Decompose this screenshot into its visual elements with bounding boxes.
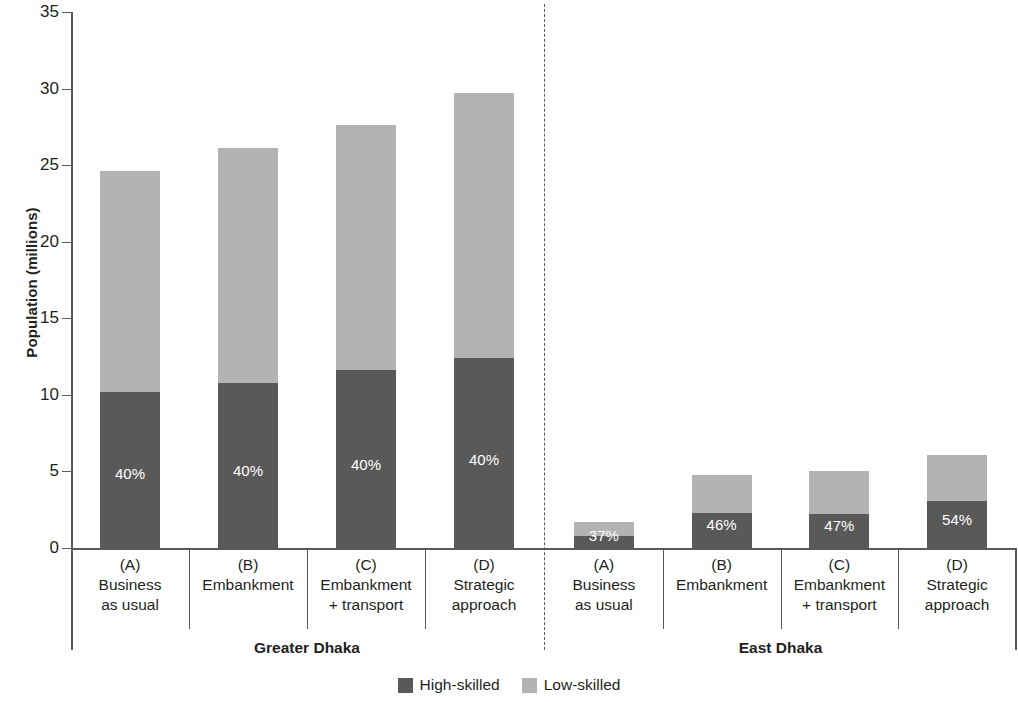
bar-segment-low-skilled [692,475,752,513]
bar-segment-low-skilled [809,471,869,514]
category-label: (B)Embankment [663,555,781,595]
category-label: (A)Businessas usual [545,555,663,615]
category-name-line: Business [545,575,663,595]
category-label: (D)Strategicapproach [425,555,543,615]
y-tick-label: 5 [23,462,59,479]
category-name-line: Embankment [781,575,899,595]
y-tick-label: 0 [23,539,59,556]
legend-item-high-skilled: High-skilled [398,676,500,694]
category-name-line: Embankment [663,575,781,595]
category-code: (D) [898,555,1016,575]
y-tick-mark [62,548,71,549]
bar-segment-low-skilled [100,171,160,392]
category-name-line: + transport [781,595,899,615]
bar-segment-high-skilled [809,514,869,548]
bar-segment-low-skilled [336,125,396,370]
y-tick-mark [62,165,71,166]
bar: 46% [692,475,752,549]
y-tick-mark [62,89,71,90]
y-tick-label: 15 [23,309,59,326]
bar-segment-high-skilled [100,392,160,548]
y-axis-title: Population (millions) [23,168,40,398]
category-code: (C) [307,555,425,575]
category-separator [425,549,426,629]
category-name-line: Strategic [898,575,1016,595]
bar-segment-low-skilled [454,93,514,358]
y-axis-line [71,12,73,549]
y-tick-label: 30 [23,80,59,97]
y-tick-mark [62,318,71,319]
bar: 40% [218,148,278,548]
bar: 37% [574,522,634,548]
category-name-line: approach [425,595,543,615]
category-name-line: as usual [71,595,189,615]
category-name-line: approach [898,595,1016,615]
bar: 40% [336,125,396,548]
category-code: (A) [71,555,189,575]
bar-segment-high-skilled [218,383,278,548]
y-tick-mark [62,242,71,243]
bar-segment-high-skilled [574,536,634,548]
y-tick-mark [62,395,71,396]
legend-label-high-skilled: High-skilled [420,676,500,694]
category-name-line: Embankment [307,575,425,595]
legend-swatch-high-skilled-icon [398,678,413,693]
category-label: (D)Strategicapproach [898,555,1016,615]
category-code: (D) [425,555,543,575]
category-separator [898,549,899,629]
category-code: (A) [545,555,663,575]
bar: 40% [454,93,514,548]
category-name-line: Business [71,575,189,595]
category-label: (C)Embankment+ transport [307,555,425,615]
category-code: (C) [781,555,899,575]
bar-segment-high-skilled [927,501,987,548]
y-tick-mark [62,471,71,472]
y-tick-mark [62,12,71,13]
bar-segment-high-skilled [454,358,514,548]
bar: 47% [809,471,869,548]
category-separator [663,549,664,629]
category-name-line: Embankment [189,575,307,595]
category-separator [189,549,190,629]
category-code: (B) [189,555,307,575]
bar-segment-high-skilled [336,370,396,548]
bar-segment-low-skilled [927,455,987,501]
bar: 54% [927,455,987,548]
bar: 40% [100,171,160,548]
category-name-line: Strategic [425,575,543,595]
bar-segment-high-skilled [692,513,752,548]
category-code: (B) [663,555,781,575]
y-tick-label: 35 [23,3,59,20]
y-tick-label: 25 [23,156,59,173]
stacked-bar-chart: Population (millions) 05101520253035 40%… [0,0,1018,702]
group-divider-dashed [544,4,545,650]
legend: High-skilled Low-skilled [0,676,1018,694]
category-separator [781,549,782,629]
bar-segment-low-skilled [574,522,634,536]
legend-item-low-skilled: Low-skilled [522,676,621,694]
group-label: East Dhaka [545,639,1016,657]
category-label: (B)Embankment [189,555,307,595]
category-separator [307,549,308,629]
y-tick-label: 10 [23,386,59,403]
category-label: (A)Businessas usual [71,555,189,615]
legend-label-low-skilled: Low-skilled [544,676,621,694]
category-name-line: + transport [307,595,425,615]
bar-segment-low-skilled [218,148,278,382]
category-label: (C)Embankment+ transport [781,555,899,615]
group-label: Greater Dhaka [71,639,543,657]
legend-swatch-low-skilled-icon [522,678,537,693]
category-name-line: as usual [545,595,663,615]
y-tick-label: 20 [23,233,59,250]
